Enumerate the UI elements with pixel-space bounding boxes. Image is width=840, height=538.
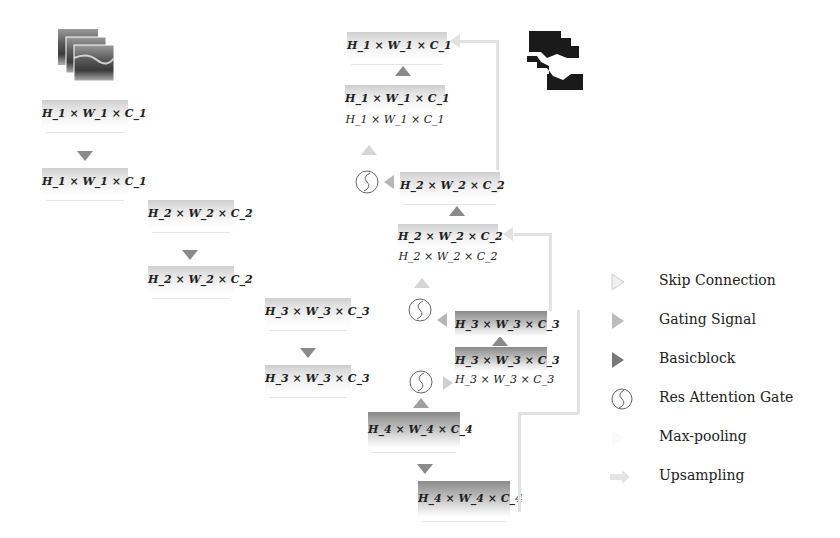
feature-map-label: H_3 × W_3 × C_3 <box>455 371 547 393</box>
skip-connection-icon <box>610 274 634 290</box>
decoder-block-2-concat: H_2 × W_2 × C_2 H_2 × W_2 × C_2 <box>398 224 498 270</box>
output-mask-stack <box>527 30 589 92</box>
decoder-block-1-concat: H_1 × W_1 × C_1 H_1 × W_1 × C_1 <box>345 85 445 133</box>
feature-map-label: H_1 × W_1 × C_1 <box>345 111 445 133</box>
legend-item-gating-signal: Gating Signal <box>610 309 840 333</box>
legend-label: Max-pooling <box>659 428 747 444</box>
gating-signal-arrow-icon <box>437 313 447 327</box>
segmentation-mask-icon <box>527 30 589 92</box>
basicblock-arrow-icon <box>413 398 429 408</box>
decoder-block-3-output: H_3 × W_3 × C_3 <box>455 311 547 337</box>
upsampling-line <box>514 233 551 236</box>
basicblock-arrow-icon <box>492 336 508 346</box>
encoder-block-1-top: H_1 × W_1 × C_1 <box>42 100 128 133</box>
feature-map-label: H_2 × W_2 × C_2 <box>398 224 498 248</box>
upsampling-line <box>549 233 552 311</box>
upsampling-line <box>518 412 521 512</box>
encoder-block-3-top: H_3 × W_3 × C_3 <box>265 298 351 331</box>
upsampling-line <box>577 310 580 414</box>
legend-item-max-pooling: Max-pooling <box>610 426 840 450</box>
upsampling-arrow-icon <box>503 227 513 241</box>
res-attention-gate-icon <box>409 370 433 394</box>
feature-map-label: H_3 × W_3 × C_3 <box>455 347 547 371</box>
legend-item-upsampling: Upsampling <box>610 465 840 489</box>
legend-label: Gating Signal <box>659 311 756 327</box>
legend-item-skip-connection: Skip Connection <box>610 270 840 294</box>
skip-connection-arrow-icon <box>414 278 430 288</box>
basicblock-arrow-icon <box>300 348 316 358</box>
upsampling-line <box>518 412 578 415</box>
legend-item-res-attention-gate: Res Attention Gate <box>610 387 840 411</box>
upsampling-arrow-icon <box>450 34 460 48</box>
basicblock-arrow-icon <box>182 250 198 260</box>
legend-label: Res Attention Gate <box>659 389 793 405</box>
feature-map-label: H_2 × W_2 × C_2 <box>148 200 234 228</box>
legend-label: Upsampling <box>659 467 744 483</box>
decoder-block-3-concat: H_3 × W_3 × C_3 H_3 × W_3 × C_3 <box>455 347 547 393</box>
decoder-block-1-output: H_1 × W_1 × C_1 <box>347 32 447 65</box>
encoder-block-3-bottom: H_3 × W_3 × C_3 <box>265 365 351 398</box>
skip-connection-arrow-icon <box>443 376 453 390</box>
feature-map-label: H_1 × W_1 × C_1 <box>347 32 447 60</box>
basicblock-arrow-icon <box>449 206 465 216</box>
gating-signal-icon <box>610 313 634 329</box>
basicblock-arrow-icon <box>417 464 433 474</box>
feature-map-label: H_3 × W_3 × C_3 <box>455 311 547 337</box>
ultrasound-image-icon <box>57 28 117 84</box>
upsampling-icon <box>610 469 634 485</box>
encoder-block-4-bottom: H_4 × W_4 × C_4 <box>418 481 510 522</box>
feature-map-label: H_3 × W_3 × C_3 <box>265 365 351 393</box>
encoder-block-4-top: H_4 × W_4 × C_4 <box>368 412 460 453</box>
feature-map-label: H_4 × W_4 × C_4 <box>418 481 510 517</box>
feature-map-label: H_1 × W_1 × C_1 <box>345 85 445 111</box>
upsampling-line <box>496 40 499 170</box>
basicblock-arrow-icon <box>395 66 411 76</box>
max-pooling-icon <box>610 430 634 446</box>
res-attention-gate-icon <box>610 387 634 411</box>
res-attention-gate-icon <box>408 298 432 322</box>
upsampling-line <box>460 40 498 43</box>
encoder-block-1-bottom: H_1 × W_1 × C_1 <box>42 168 128 201</box>
feature-map-label: H_2 × W_2 × C_2 <box>398 248 498 270</box>
feature-map-label: H_3 × W_3 × C_3 <box>265 298 351 326</box>
skip-connection-arrow-icon <box>361 145 377 155</box>
decoder-block-2-output: H_2 × W_2 × C_2 <box>400 172 500 205</box>
encoder-block-2-bottom: H_2 × W_2 × C_2 <box>148 266 234 299</box>
legend-label: Basicblock <box>659 350 735 366</box>
basicblock-icon <box>610 352 634 368</box>
feature-map-label: H_1 × W_1 × C_1 <box>42 100 128 128</box>
input-image-stack <box>57 28 117 84</box>
legend-label: Skip Connection <box>659 272 776 288</box>
basicblock-arrow-icon <box>77 151 93 161</box>
feature-map-label: H_2 × W_2 × C_2 <box>400 172 500 200</box>
gating-signal-arrow-icon <box>384 175 394 189</box>
encoder-block-2-top: H_2 × W_2 × C_2 <box>148 200 234 233</box>
legend-item-basicblock: Basicblock <box>610 348 840 372</box>
res-attention-gate-icon <box>355 170 379 194</box>
feature-map-label: H_2 × W_2 × C_2 <box>148 266 234 294</box>
feature-map-label: H_1 × W_1 × C_1 <box>42 168 128 196</box>
feature-map-label: H_4 × W_4 × C_4 <box>368 412 460 448</box>
